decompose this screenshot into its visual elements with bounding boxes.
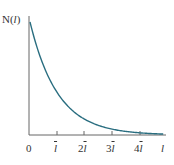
tick-1-l: l [54,142,57,154]
tick-3-l: l [112,142,115,154]
tick-label-0: 0 [26,143,32,154]
tick-label-2: 2l [78,143,87,154]
tick-2-l: l [84,142,87,154]
decay-curve [30,22,163,134]
tick-4-l: l [140,142,143,154]
y-label-close: ) [17,13,21,25]
x-axis-label: l [161,143,164,154]
y-label-n: N( [2,13,14,25]
tick-label-4: 4l [134,143,143,154]
tick-label-3: 3l [106,143,115,154]
chart-canvas [0,0,174,165]
tick-label-1: l [54,143,57,154]
y-axis-label: N(l) [2,14,20,25]
